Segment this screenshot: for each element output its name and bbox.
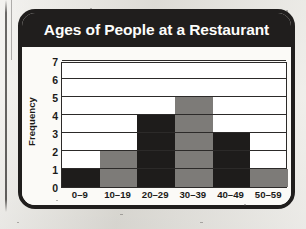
x-tick-label: 40–49 bbox=[212, 190, 250, 200]
bar bbox=[250, 169, 288, 187]
y-tick-label: 5 bbox=[42, 93, 58, 104]
y-tick-label: 3 bbox=[42, 129, 58, 140]
bar bbox=[213, 133, 251, 187]
bar bbox=[137, 115, 175, 187]
y-tick-label: 1 bbox=[42, 165, 58, 176]
y-axis-title-text: Frequency bbox=[26, 97, 37, 146]
x-tick-label: 50–59 bbox=[249, 190, 287, 200]
chart-title: Ages of People at a Restaurant bbox=[44, 21, 269, 39]
paper-speckle bbox=[17, 222, 19, 223]
plot-container: Frequency 01234567 0–910–1920–2930–3940–… bbox=[22, 48, 291, 205]
bar bbox=[100, 151, 138, 187]
bar bbox=[175, 97, 213, 187]
y-axis-title: Frequency bbox=[24, 81, 38, 161]
paper-speckle bbox=[244, 204, 246, 206]
y-tick-label: 4 bbox=[42, 111, 58, 122]
y-tick-label: 7 bbox=[42, 57, 58, 68]
y-tick-label: 0 bbox=[42, 183, 58, 194]
bar bbox=[62, 169, 100, 187]
paper-speckle bbox=[200, 222, 203, 223]
bars-layer bbox=[62, 63, 286, 187]
x-tick-label: 10–19 bbox=[99, 190, 137, 200]
paper-speckle bbox=[120, 214, 123, 215]
x-axis-tick-labels: 0–910–1920–2930–3940–4950–59 bbox=[61, 190, 287, 204]
y-tick-label: 6 bbox=[42, 75, 58, 86]
gridline bbox=[62, 60, 286, 61]
paper-speckle bbox=[90, 8, 92, 9]
y-tick-label: 2 bbox=[42, 147, 58, 158]
x-tick-label: 0–9 bbox=[61, 190, 99, 200]
x-tick-label: 30–39 bbox=[174, 190, 212, 200]
chart-title-bar: Ages of People at a Restaurant bbox=[21, 12, 292, 47]
paper-speckle bbox=[286, 10, 288, 12]
plot-area bbox=[61, 62, 287, 188]
x-tick-label: 20–29 bbox=[136, 190, 174, 200]
x-axis-title: Age bbox=[61, 204, 287, 209]
page-edge-rule bbox=[5, 0, 7, 212]
y-axis-tick-labels: 01234567 bbox=[42, 62, 58, 188]
chart-card: Ages of People at a Restaurant Frequency… bbox=[18, 9, 295, 209]
paper-speckle bbox=[56, 200, 58, 201]
page-edge-rule-secondary bbox=[11, 0, 12, 60]
